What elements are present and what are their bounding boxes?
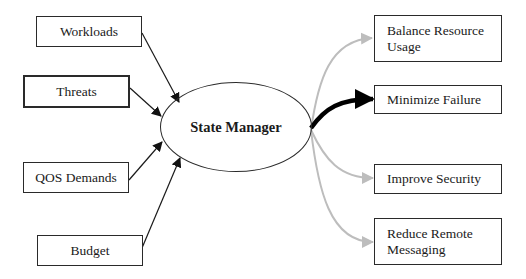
arrow-hub-to-minimize-failure (311, 99, 373, 128)
input-node-qos-demands: QOS Demands (23, 162, 129, 193)
improve-security-label: Improve Security (387, 171, 481, 187)
state-manager-label: State Manager (190, 119, 281, 136)
input-node-workloads: Workloads (36, 16, 142, 47)
balance-resource-usage-label: Balance Resource Usage (387, 23, 484, 55)
arrow-workloads-to-hub (142, 33, 179, 102)
input-node-budget: Budget (37, 235, 143, 266)
minimize-failure-label: Minimize Failure (387, 92, 481, 108)
reduce-remote-messaging-label: Reduce Remote Messaging (387, 226, 473, 258)
threats-label: Threats (56, 84, 96, 100)
input-node-threats: Threats (23, 75, 130, 108)
qos-demands-label: QOS Demands (35, 170, 116, 186)
workloads-label: Workloads (60, 24, 118, 40)
output-node-improve-security: Improve Security (374, 164, 502, 194)
arrow-qos-to-hub (129, 142, 162, 180)
output-node-balance-resource-usage: Balance Resource Usage (374, 15, 502, 62)
output-node-minimize-failure: Minimize Failure (374, 85, 502, 114)
arrow-hub-to-improve-security (311, 130, 373, 178)
arrow-budget-to-hub (142, 158, 180, 248)
budget-label: Budget (71, 243, 110, 259)
output-node-reduce-remote-messaging: Reduce Remote Messaging (374, 218, 502, 265)
arrow-threats-to-hub (130, 88, 161, 116)
state-manager-node: State Manager (160, 82, 312, 172)
